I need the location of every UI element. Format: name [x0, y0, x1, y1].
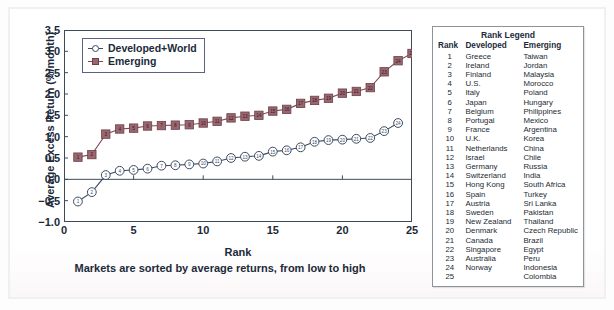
- cell-developed: Australia: [465, 254, 523, 263]
- cell-developed: Greece: [465, 52, 523, 61]
- cell-emerging: Sri Lanka: [523, 199, 578, 208]
- cell-emerging: Czech Republic: [523, 226, 578, 235]
- y-tick-label: 0.5: [26, 152, 60, 164]
- data-point-label: 1: [77, 155, 80, 160]
- x-tick-label: 5: [131, 224, 137, 236]
- data-point-label: 12: [228, 116, 234, 121]
- cell-emerging: Chile: [523, 153, 578, 162]
- data-point-label: 3: [104, 173, 107, 178]
- cell-developed: U.S.: [465, 79, 523, 88]
- cell-rank: 3: [438, 70, 465, 79]
- cell-developed: Sweden: [465, 208, 523, 217]
- table-row: 14SwitzerlandIndia: [438, 171, 578, 180]
- table-row: 3FinlandMalaysia: [438, 70, 578, 79]
- x-tick-label: 10: [197, 224, 209, 236]
- table-row: 7BelgiumPhilippines: [438, 107, 578, 116]
- data-point-label: 18: [312, 140, 318, 145]
- legend-item-developed: Developed+World: [88, 42, 197, 55]
- x-tick-label: 25: [406, 224, 418, 236]
- y-tick-label: 2.0: [26, 88, 60, 100]
- data-point-label: 7: [160, 123, 163, 128]
- legend-label-developed: Developed+World: [108, 42, 197, 55]
- cell-emerging: Philippines: [523, 107, 578, 116]
- x-tick-label: 20: [336, 224, 348, 236]
- data-point-label: 13: [242, 114, 248, 119]
- x-axis-label: Rank: [64, 246, 412, 258]
- cell-developed: [465, 272, 523, 281]
- x-axis-tick-labels: 0510152025: [64, 224, 412, 240]
- y-tick-label: 1.5: [26, 109, 60, 121]
- legend-item-emerging: Emerging: [88, 55, 197, 68]
- cell-emerging: Egypt: [523, 245, 578, 254]
- rank-legend-title: Rank Legend: [438, 30, 578, 41]
- data-point-label: 23: [382, 129, 388, 134]
- cell-rank: 16: [438, 190, 465, 199]
- cell-emerging: South Africa: [523, 180, 578, 189]
- data-point-label: 24: [396, 59, 402, 64]
- cell-emerging: Korea: [523, 134, 578, 143]
- cell-emerging: Pakistan: [523, 208, 578, 217]
- cell-rank: 7: [438, 107, 465, 116]
- cell-emerging: Colombia: [523, 272, 578, 281]
- table-row: 4U.S.Morocco: [438, 79, 578, 88]
- table-row: 8PortugalMexico: [438, 116, 578, 125]
- column-header-rank: Rank: [438, 41, 465, 52]
- chart-panel: Average Excess Return (%/month) −1.0−0.5…: [20, 18, 420, 288]
- cell-developed: Norway: [465, 263, 523, 272]
- data-point-label: 7: [160, 164, 163, 169]
- data-point-label: 17: [298, 145, 304, 150]
- plot-area: 1234567891011121314151617181920212223241…: [64, 30, 412, 222]
- data-point-label: 16: [284, 148, 290, 153]
- cell-developed: Israel: [465, 153, 523, 162]
- table-row: 18SwedenPakistan: [438, 208, 578, 217]
- cell-emerging: Argentina: [523, 125, 578, 134]
- cell-developed: Belgium: [465, 107, 523, 116]
- data-point-label: 15: [270, 150, 276, 155]
- cell-developed: France: [465, 125, 523, 134]
- x-tick-label: 0: [61, 224, 67, 236]
- chart-caption: Markets are sorted by average returns, f…: [20, 262, 420, 274]
- table-row: 16SpainTurkey: [438, 190, 578, 199]
- cell-developed: Italy: [465, 88, 523, 97]
- cell-developed: Portugal: [465, 116, 523, 125]
- data-point-label: 18: [312, 98, 318, 103]
- table-row: 13GermanyRussia: [438, 162, 578, 171]
- cell-emerging: Peru: [523, 254, 578, 263]
- data-point-label: 20: [340, 91, 346, 96]
- rank-legend-body: 1GreeceTaiwan2IrelandJordan3FinlandMalay…: [438, 52, 578, 282]
- cell-rank: 10: [438, 134, 465, 143]
- data-point-label: 20: [340, 138, 346, 143]
- cell-rank: 6: [438, 98, 465, 107]
- data-point-label: 3: [104, 132, 107, 137]
- cell-developed: Japan: [465, 98, 523, 107]
- y-tick-label: 3.0: [26, 45, 60, 57]
- table-row: 11NetherlandsChina: [438, 144, 578, 153]
- table-row: 9FranceArgentina: [438, 125, 578, 134]
- data-point-label: 25: [409, 51, 412, 56]
- cell-emerging: Jordan: [523, 61, 578, 70]
- cell-emerging: Morocco: [523, 79, 578, 88]
- cell-developed: Switzerland: [465, 171, 523, 180]
- data-point-label: 19: [326, 96, 332, 101]
- cell-rank: 22: [438, 245, 465, 254]
- table-row: 22SingaporeEgypt: [438, 245, 578, 254]
- table-row: 19New ZealandThailand: [438, 217, 578, 226]
- data-point-label: 9: [188, 162, 191, 167]
- table-row: 10U.K.Korea: [438, 134, 578, 143]
- cell-developed: Spain: [465, 190, 523, 199]
- cell-rank: 25: [438, 272, 465, 281]
- cell-rank: 1: [438, 52, 465, 61]
- circle-marker-icon: [88, 43, 103, 54]
- cell-developed: U.K.: [465, 134, 523, 143]
- table-header-row: Rank Developed Emerging: [438, 41, 578, 52]
- cell-emerging: Brazil: [523, 236, 578, 245]
- x-tick-label: 15: [267, 224, 279, 236]
- cell-emerging: China: [523, 144, 578, 153]
- cell-developed: Germany: [465, 162, 523, 171]
- data-point-label: 22: [368, 136, 374, 141]
- data-point-label: 5: [132, 168, 135, 173]
- table-row: 15Hong KongSouth Africa: [438, 180, 578, 189]
- cell-rank: 15: [438, 180, 465, 189]
- cell-rank: 20: [438, 226, 465, 235]
- data-point-label: 4: [118, 169, 121, 174]
